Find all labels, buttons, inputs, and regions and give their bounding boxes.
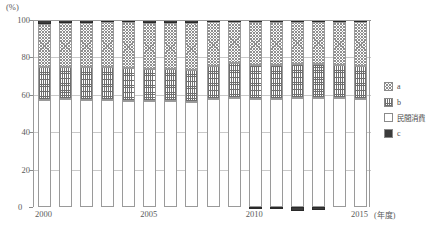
y-tick-label-100: 100 bbox=[4, 15, 30, 25]
bar-segment-a-2013 bbox=[312, 22, 325, 64]
bar-2003[interactable] bbox=[101, 20, 114, 207]
bar-segment-b-2004 bbox=[122, 68, 135, 101]
bar-segment-c-2000 bbox=[38, 20, 51, 24]
bar-segment-c-2013 bbox=[312, 20, 325, 22]
bar-2006[interactable] bbox=[164, 20, 177, 207]
legend-item-b[interactable]: b bbox=[384, 98, 435, 107]
y-tick-label-40: 40 bbox=[4, 127, 30, 137]
y-tick-label-60: 60 bbox=[4, 90, 30, 100]
bar-segment-a-2002 bbox=[80, 23, 93, 67]
bar-segment-民間消費-2001 bbox=[59, 99, 72, 207]
bar-segment-民間消費-2007 bbox=[185, 102, 198, 207]
bar-segment-b-2012 bbox=[291, 64, 304, 98]
bar-segment-民間消費-2008 bbox=[207, 99, 220, 207]
bar-segment-b-2002 bbox=[80, 67, 93, 100]
bar-segment-c-2012 bbox=[291, 20, 304, 22]
bar-segment-a-2001 bbox=[59, 23, 72, 67]
legend-swatch-icon-0 bbox=[384, 82, 393, 91]
bar-segment-a-2007 bbox=[185, 23, 198, 70]
bar-segment-c-2003 bbox=[101, 20, 114, 22]
bar-segment-b-2015 bbox=[354, 66, 367, 99]
bar-2009[interactable] bbox=[228, 20, 241, 207]
bar-segment-c-2014 bbox=[333, 20, 346, 22]
legend-label: b bbox=[397, 98, 401, 107]
bar-segment-c-2015 bbox=[354, 20, 367, 22]
bar-2008[interactable] bbox=[207, 20, 220, 207]
bar-2002[interactable] bbox=[80, 20, 93, 207]
legend: ab民間消費c bbox=[384, 82, 435, 144]
bar-2001[interactable] bbox=[59, 20, 72, 207]
bar-segment-c-2006 bbox=[164, 20, 177, 23]
bar-2005[interactable] bbox=[143, 20, 156, 207]
bar-segment-民間消費-2013 bbox=[312, 98, 325, 207]
bar-segment-c-2009 bbox=[228, 20, 241, 22]
bar-segment-c-2010 bbox=[249, 20, 262, 22]
legend-swatch-icon-2 bbox=[384, 113, 393, 122]
bar-segment-民間消費-2010 bbox=[249, 99, 262, 207]
bar-segment-b-2005 bbox=[143, 69, 156, 102]
bar-segment-c-2004 bbox=[122, 20, 135, 22]
bar-segment-b-2006 bbox=[164, 69, 177, 101]
bar-segment-a-2004 bbox=[122, 22, 135, 68]
bar-2007[interactable] bbox=[185, 20, 198, 207]
bar-segment-a-2011 bbox=[270, 22, 283, 64]
bar-segment-b-2007 bbox=[185, 70, 198, 102]
x-tick-label-2005: 2005 bbox=[140, 209, 157, 219]
bar-segment-a-2008 bbox=[207, 22, 220, 66]
bar-segment-a-2009 bbox=[228, 22, 241, 63]
bar-segment-a-2012 bbox=[291, 22, 304, 64]
bar-2004[interactable] bbox=[122, 20, 135, 207]
bar-segment-c-2005 bbox=[143, 20, 156, 23]
bar-segment-民間消費-2015 bbox=[354, 99, 367, 207]
y-axis-ticks: 10080604020 bbox=[0, 20, 30, 207]
bar-segment-c-2007 bbox=[185, 20, 198, 23]
bar-segment-a-2015 bbox=[354, 22, 367, 66]
bar-segment-a-2000 bbox=[38, 24, 51, 67]
x-axis-ticks: 2000200520102015(年度) bbox=[33, 209, 393, 223]
bar-segment-民間消費-2011 bbox=[270, 99, 283, 207]
x-tick-label-2010: 2010 bbox=[246, 209, 263, 219]
bar-segment-民間消費-2005 bbox=[143, 101, 156, 207]
bar-segment-c-2001 bbox=[59, 20, 72, 23]
bar-segment-民間消費-2000 bbox=[38, 100, 51, 207]
bar-segment-民間消費-2004 bbox=[122, 101, 135, 207]
legend-swatch-icon-1 bbox=[384, 98, 393, 107]
bar-2010[interactable] bbox=[249, 20, 262, 207]
bar-2011[interactable] bbox=[270, 20, 283, 207]
bar-segment-a-2006 bbox=[164, 23, 177, 69]
bar-segment-b-2001 bbox=[59, 67, 72, 100]
legend-item-a[interactable]: a bbox=[384, 82, 435, 91]
bar-segment-c-2002 bbox=[80, 20, 93, 23]
y-tick-zero: 0 bbox=[18, 202, 22, 212]
bar-2000[interactable] bbox=[38, 20, 51, 207]
bar-segment-民間消費-2006 bbox=[164, 101, 177, 207]
bar-segment-b-2000 bbox=[38, 67, 51, 100]
bar-segment-b-2010 bbox=[249, 65, 262, 99]
bar-segment-a-2005 bbox=[143, 23, 156, 69]
bar-2013[interactable] bbox=[312, 20, 325, 207]
bar-2014[interactable] bbox=[333, 20, 346, 207]
legend-item-minkan-shohi[interactable]: 民間消費 bbox=[384, 113, 435, 122]
y-tick-label-20: 20 bbox=[4, 165, 30, 175]
bar-segment-a-2010 bbox=[249, 22, 262, 65]
y-axis-unit-label: (%) bbox=[6, 2, 19, 12]
bar-segment-c-2011 bbox=[270, 20, 283, 22]
bar-segment-a-2014 bbox=[333, 22, 346, 65]
x-tick-label-2000: 2000 bbox=[35, 209, 52, 219]
y-tick-mark-0 bbox=[29, 207, 33, 208]
bar-segment-民間消費-2014 bbox=[333, 98, 346, 207]
bar-segment-民間消費-2003 bbox=[101, 100, 114, 207]
bar-segment-b-2014 bbox=[333, 65, 346, 98]
y-tick-label-80: 80 bbox=[4, 52, 30, 62]
legend-label: c bbox=[397, 129, 401, 138]
bar-segment-b-2011 bbox=[270, 65, 283, 99]
bar-segment-b-2008 bbox=[207, 66, 220, 99]
bar-segment-民間消費-2009 bbox=[228, 98, 241, 207]
bar-2015[interactable] bbox=[354, 20, 367, 207]
bar-segment-b-2003 bbox=[101, 67, 114, 100]
x-tick-label-2015: 2015 bbox=[351, 209, 368, 219]
bar-2012[interactable] bbox=[291, 20, 304, 207]
bar-segment-c-2008 bbox=[207, 20, 220, 22]
legend-item-c[interactable]: c bbox=[384, 129, 435, 138]
bar-segment-b-2013 bbox=[312, 64, 325, 98]
